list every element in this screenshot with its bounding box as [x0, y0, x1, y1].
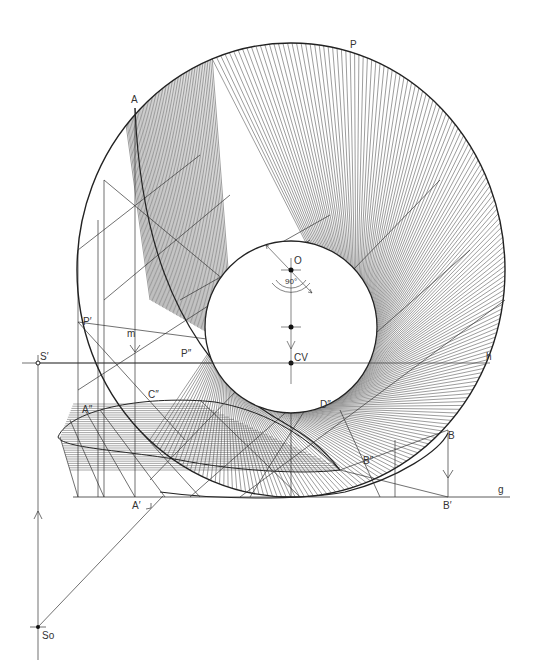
label-m: m — [127, 328, 135, 339]
label-p-double-prime: P″ — [181, 348, 192, 359]
label-cv: CV — [294, 352, 308, 363]
label-d-double-prime: D″ — [320, 399, 331, 410]
label-h: h — [486, 351, 492, 362]
perspective-ring-diagram: A P O 90° CV h S′ P′ m P″ C″ A″ D″ B B″ … — [0, 0, 539, 671]
label-b: B — [448, 430, 455, 441]
label-c-double-prime: C″ — [148, 389, 159, 400]
label-b-double-prime: B″ — [363, 455, 374, 466]
so-point — [36, 625, 40, 629]
label-a-double-prime: A″ — [82, 404, 93, 415]
light-source-construction — [30, 355, 163, 660]
label-p-prime: P′ — [83, 316, 92, 327]
label-angle-90: 90° — [285, 277, 297, 286]
label-o: O — [294, 255, 302, 266]
label-b-prime: B′ — [443, 500, 452, 511]
mid-point — [289, 325, 294, 330]
label-g: g — [498, 484, 504, 495]
label-so: So — [42, 630, 55, 641]
cast-shadow-hatching — [58, 400, 448, 498]
label-a: A — [131, 94, 138, 105]
center-point-o — [289, 268, 294, 273]
label-s-prime: S′ — [40, 351, 49, 362]
label-p: P — [350, 39, 357, 50]
label-a-prime: A′ — [132, 500, 141, 511]
